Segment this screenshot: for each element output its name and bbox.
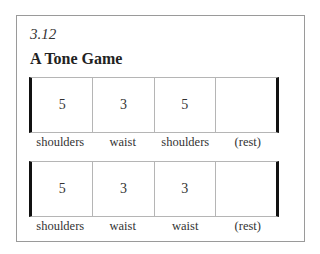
measure-2-label-1: shoulders [29, 219, 92, 234]
measure-1-label-3: shoulders [154, 135, 217, 150]
measure-1-labels: shoulders waist shoulders (rest) [29, 135, 279, 150]
measure-1: 5 3 5 [29, 77, 279, 133]
measure-2-label-2: waist [92, 219, 155, 234]
measure-2-cell-3: 3 [155, 162, 216, 216]
figure-title: A Tone Game [30, 50, 122, 68]
measure-1-cell-2: 3 [93, 78, 154, 132]
measure-2-label-3: waist [154, 219, 217, 234]
measure-2: 5 3 3 [29, 161, 279, 217]
measure-2-cell-4 [216, 162, 276, 216]
measure-2-cell-2: 3 [93, 162, 154, 216]
measure-1-cell-4 [216, 78, 276, 132]
measure-2-cell-1: 5 [32, 162, 93, 216]
measure-1-cell-1: 5 [32, 78, 93, 132]
measure-1-label-2: waist [92, 135, 155, 150]
measure-2-label-4: (rest) [217, 219, 280, 234]
figure-number: 3.12 [30, 26, 56, 43]
measure-2-labels: shoulders waist waist (rest) [29, 219, 279, 234]
measure-1-label-4: (rest) [217, 135, 280, 150]
measure-1-label-1: shoulders [29, 135, 92, 150]
measure-1-cell-3: 5 [155, 78, 216, 132]
